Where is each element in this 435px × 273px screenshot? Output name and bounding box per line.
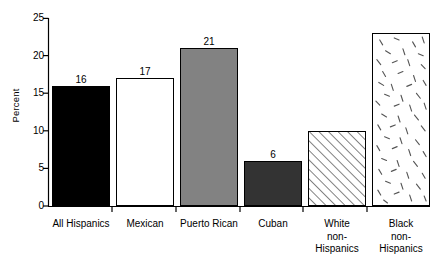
bar-chart: Percent 0 5 10 15 20 25 xyxy=(0,0,435,273)
bar-cuban[interactable]: 6 xyxy=(244,161,302,206)
bar-slot-cuban: 6 xyxy=(244,161,302,206)
bar-black-non-hispanics[interactable]: 23 xyxy=(372,33,430,206)
bar-slot-all-hispanics: 16 xyxy=(52,86,110,206)
x-label-black-non-hispanics: Black non- Hispanics xyxy=(359,218,435,256)
plot-area: 16 17 21 6 xyxy=(48,18,430,206)
bar-mexican[interactable]: 17 xyxy=(116,78,174,206)
bar-slot-puerto-rican: 21 xyxy=(180,48,238,206)
bar-value-all-hispanics: 16 xyxy=(53,74,109,85)
x-axis-ticks xyxy=(112,207,367,213)
bar-slot-black-non-hispanics: 23 xyxy=(372,33,430,206)
bar-slot-mexican: 17 xyxy=(116,78,174,206)
bar-value-mexican: 17 xyxy=(117,66,173,77)
bar-white-non-hispanics[interactable]: 10 xyxy=(308,131,366,206)
bar-value-puerto-rican: 21 xyxy=(181,36,237,47)
bar-puerto-rican[interactable]: 21 xyxy=(180,48,238,206)
bar-all-hispanics[interactable]: 16 xyxy=(52,86,110,206)
x-axis-category-labels: All Hispanics Mexican Puerto Rican Cuban… xyxy=(48,218,430,273)
diagonal-hatch-pattern xyxy=(309,132,365,205)
bar-value-cuban: 6 xyxy=(245,149,301,160)
bar-slot-white-non-hispanics: 10 xyxy=(308,131,366,206)
speckled-dash-pattern xyxy=(373,34,429,205)
